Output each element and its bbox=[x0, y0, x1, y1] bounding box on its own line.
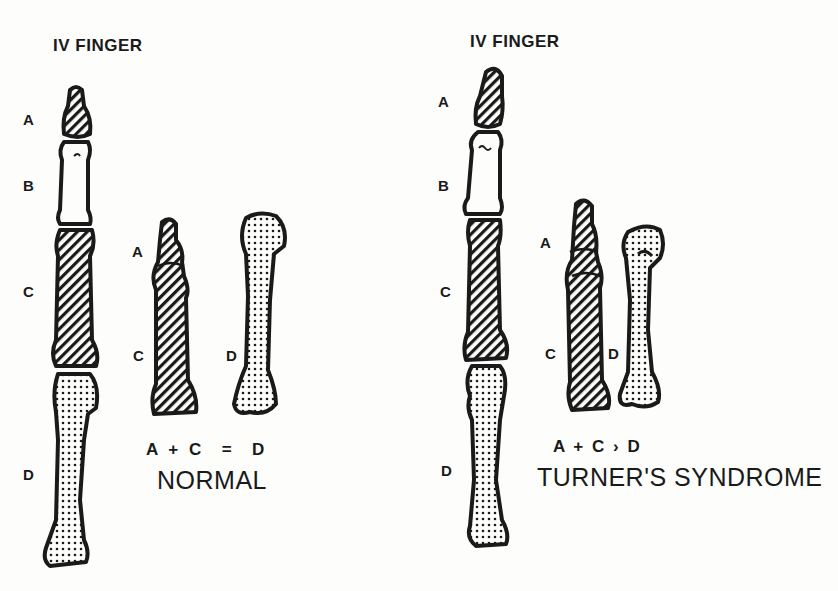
turner-phalanx-c bbox=[464, 220, 507, 360]
turner-label-c: C bbox=[440, 284, 451, 299]
turner-detail-label-d: D bbox=[608, 346, 619, 361]
finger-bone-illustrations bbox=[0, 0, 838, 591]
turner-panel-title: IV FINGER bbox=[470, 32, 560, 52]
turner-detail-a-plus-c bbox=[567, 200, 609, 410]
turner-caption: TURNER'S SYNDROME bbox=[537, 463, 823, 492]
normal-label-a: A bbox=[23, 112, 34, 127]
normal-detail-a-plus-c bbox=[152, 219, 196, 414]
turner-label-d: D bbox=[441, 463, 452, 478]
turner-equation: A + C › D bbox=[553, 437, 641, 457]
turner-phalanx-b bbox=[464, 132, 502, 214]
normal-caption: NORMAL bbox=[157, 466, 267, 495]
normal-detail-label-d: D bbox=[226, 348, 237, 363]
normal-label-d: D bbox=[23, 467, 34, 482]
normal-full-finger bbox=[45, 87, 98, 566]
normal-phalanx-b bbox=[58, 142, 91, 224]
normal-detail-d bbox=[234, 213, 285, 413]
turner-detail-d bbox=[620, 226, 663, 406]
normal-label-c: C bbox=[23, 284, 34, 299]
turner-metacarpal-d bbox=[467, 366, 507, 546]
normal-label-b: B bbox=[23, 178, 34, 193]
turner-detail-label-c: C bbox=[545, 346, 556, 361]
turner-phalanx-a bbox=[476, 69, 503, 127]
turner-label-a: A bbox=[438, 94, 449, 109]
normal-phalanx-a bbox=[64, 87, 91, 137]
normal-metacarpal-d bbox=[45, 374, 97, 566]
turner-detail-label-a: A bbox=[540, 235, 551, 250]
normal-equation: A + C = D bbox=[146, 440, 265, 460]
normal-phalanx-c bbox=[53, 230, 97, 366]
normal-detail-label-a: A bbox=[132, 244, 143, 259]
normal-panel-title: IV FINGER bbox=[53, 36, 143, 56]
turner-label-b: B bbox=[438, 178, 449, 193]
normal-detail-label-c: C bbox=[133, 348, 144, 363]
turner-full-finger bbox=[464, 69, 507, 546]
